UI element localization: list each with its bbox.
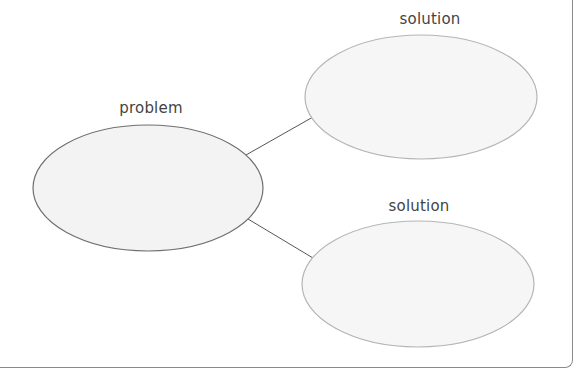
edge-problem-solution-top [246,117,313,155]
solution-top-label: solution [400,10,461,28]
problem-label: problem [119,99,182,117]
solution-bottom-label: solution [389,197,450,215]
solution-ellipse-top[interactable] [305,35,537,159]
edge-problem-solution-bottom [248,219,313,258]
diagram-canvas [0,0,583,379]
problem-ellipse[interactable] [33,125,263,251]
solution-ellipse-bottom[interactable] [302,221,534,347]
